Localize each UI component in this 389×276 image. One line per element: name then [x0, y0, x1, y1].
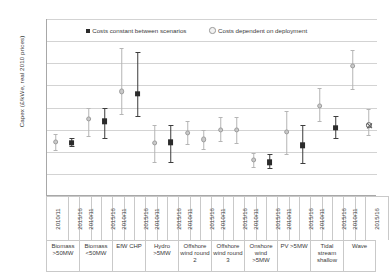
data-point-group	[146, 19, 163, 196]
x-axis-category-label: PV >5MW	[277, 240, 310, 272]
data-marker	[102, 119, 107, 124]
x-axis-group: 2010/112015/16Offshorewind round2	[178, 196, 211, 272]
error-bar-cap	[202, 149, 206, 150]
x-axis-category-label: EfW CHP	[112, 240, 145, 272]
y-axis-title: Capex (£/kWe, real 2010 prices)	[18, 12, 25, 152]
data-marker	[185, 131, 190, 136]
legend-item-constant: Costs constant between scenarios	[86, 27, 186, 34]
error-bar-cap	[102, 138, 107, 139]
data-marker	[317, 103, 322, 108]
x-axis-category-label: Tidalstreamshallow	[310, 240, 343, 272]
data-point-group	[163, 19, 180, 196]
data-marker	[53, 139, 58, 144]
x-axis-category-label: Hydro>5MW	[145, 240, 178, 272]
plot-area: 01,0002,0003,0004,0005,0006,0007,0008,00…	[46, 19, 376, 196]
error-bar-cap	[300, 125, 305, 126]
x-axis-category-label: Biomass>50MW	[46, 240, 79, 272]
x-axis-label-table: 2010/112015/16Biomass>50MW2010/112015/16…	[46, 196, 376, 272]
data-marker	[284, 129, 289, 134]
data-marker	[350, 63, 355, 68]
error-bar-cap	[267, 168, 272, 169]
data-point-group	[344, 19, 361, 196]
data-marker	[333, 125, 338, 130]
data-point-group	[196, 19, 213, 196]
error-bar-cap	[152, 125, 156, 126]
error-bar-cap	[119, 48, 123, 49]
error-bar-cap	[168, 125, 173, 126]
data-point-group	[130, 19, 147, 196]
error-bar-cap	[152, 162, 156, 163]
x-axis-group: 2010/112015/16Wave	[343, 196, 376, 272]
error-bar-cap	[367, 109, 371, 110]
open-circle-icon	[209, 27, 215, 33]
error-bar-cap	[251, 153, 255, 154]
error-bar	[88, 108, 89, 137]
error-bar-cap	[317, 121, 321, 122]
error-bar-cap	[86, 108, 90, 109]
error-bar-cap	[218, 141, 222, 142]
error-bar-cap	[86, 136, 90, 137]
data-point-group	[113, 19, 130, 196]
error-bar-cap	[202, 130, 206, 131]
data-point-group	[245, 19, 262, 196]
error-bar	[121, 48, 122, 114]
x-axis-group: 2010/112015/16Onshorewind>5MW	[244, 196, 277, 272]
data-marker	[366, 122, 372, 128]
error-bar-cap	[300, 163, 305, 164]
data-marker	[251, 158, 256, 163]
error-bar-cap	[53, 150, 57, 151]
error-bar-cap	[251, 167, 255, 168]
error-bar-cap	[69, 146, 74, 147]
x-axis-group: 2010/112015/16Hydro>5MW	[145, 196, 178, 272]
x-axis-category-label: Offshorewind round3	[211, 240, 244, 272]
data-point-group	[179, 19, 196, 196]
error-bar-cap	[267, 154, 272, 155]
error-bar-cap	[119, 114, 123, 115]
x-axis-group: 2010/112015/16Biomass<50MW	[79, 196, 112, 272]
data-point-group	[328, 19, 345, 196]
x-axis-group: 2010/112015/16Tidalstreamshallow	[310, 196, 343, 272]
legend-item-dependent: Costs dependent on deployment	[209, 27, 307, 34]
error-bar-cap	[102, 108, 107, 109]
chart-legend: Costs constant between scenarios Costs d…	[86, 27, 307, 34]
error-bar-cap	[284, 111, 288, 112]
data-point-group	[361, 19, 378, 196]
data-marker	[86, 116, 91, 121]
data-point-group	[64, 19, 81, 196]
error-bar-cap	[218, 117, 222, 118]
error-bar-cap	[135, 52, 140, 53]
x-axis-category-label: Wave	[343, 240, 376, 272]
legend-label-dependent: Costs dependent on deployment	[218, 27, 307, 34]
data-marker	[69, 140, 74, 145]
x-axis-category-label: Onshorewind>5MW	[244, 240, 277, 272]
data-marker	[152, 140, 157, 145]
data-marker	[218, 127, 223, 132]
error-bar-cap	[333, 116, 338, 117]
data-marker	[267, 160, 272, 165]
error-bar-cap	[367, 135, 371, 136]
error-bar-cap	[185, 144, 189, 145]
data-marker	[135, 91, 140, 96]
error-bar-cap	[185, 121, 189, 122]
data-point-group	[278, 19, 295, 196]
data-marker	[201, 137, 206, 142]
data-point-group	[47, 19, 64, 196]
x-axis-group: 2010/112015/16Offshorewind round3	[211, 196, 244, 272]
error-bar-cap	[284, 154, 288, 155]
error-bar-cap	[235, 117, 239, 118]
x-axis-group: 2010/112015/16PV >5MW	[277, 196, 310, 272]
error-bar-cap	[53, 134, 57, 135]
data-point-group	[97, 19, 114, 196]
data-point-group	[212, 19, 229, 196]
x-axis-category-label: Offshorewind round2	[178, 240, 211, 272]
error-bar	[352, 50, 353, 89]
legend-label-constant: Costs constant between scenarios	[92, 27, 186, 34]
error-bar-cap	[168, 162, 173, 163]
data-marker	[234, 127, 239, 132]
error-bar-cap	[333, 138, 338, 139]
x-axis-year-label: 2010/11	[46, 196, 68, 240]
data-marker	[119, 89, 124, 94]
x-axis-year-label: 2015/16	[365, 196, 389, 240]
data-point-group	[295, 19, 312, 196]
